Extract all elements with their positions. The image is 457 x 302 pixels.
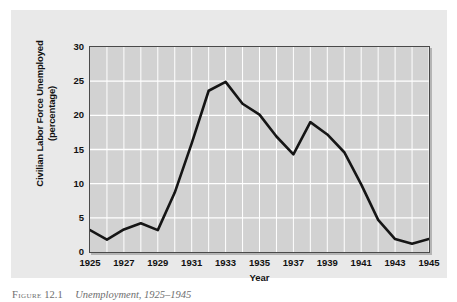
- x-tick-label: 1945: [409, 257, 449, 269]
- figure-caption: Figure 12.1 Unemployment, 1925–1945: [12, 289, 442, 300]
- y-axis-title-line-1: Civilian Labor Force Unemployed: [34, 14, 46, 214]
- figure-caption-label: Figure: [12, 289, 42, 300]
- y-tick-label: 10: [62, 179, 84, 189]
- chart-canvas: [90, 47, 429, 252]
- figure-caption-text: Unemployment, 1925–1945: [75, 289, 191, 300]
- x-axis-title: Year: [89, 272, 430, 283]
- y-tick-label: 25: [62, 76, 84, 86]
- y-tick-label: 20: [62, 110, 84, 120]
- y-tick-label: 5: [62, 213, 84, 223]
- y-axis-title: Civilian Labor Force Unemployed (percent…: [34, 14, 57, 214]
- y-axis-title-line-2: (percentage): [45, 14, 57, 214]
- y-tick-label: 15: [62, 145, 84, 155]
- y-tick-label: 0: [62, 247, 84, 257]
- figure-root: Civilian Labor Force Unemployed (percent…: [0, 0, 457, 302]
- figure-caption-number: 12.1: [44, 289, 62, 300]
- y-tick-label: 30: [62, 42, 84, 52]
- x-axis-tick-labels: 1925192719291931193319351937193919411943…: [89, 257, 430, 271]
- plot-area: [89, 46, 430, 253]
- figure-panel: Civilian Labor Force Unemployed (percent…: [11, 10, 447, 278]
